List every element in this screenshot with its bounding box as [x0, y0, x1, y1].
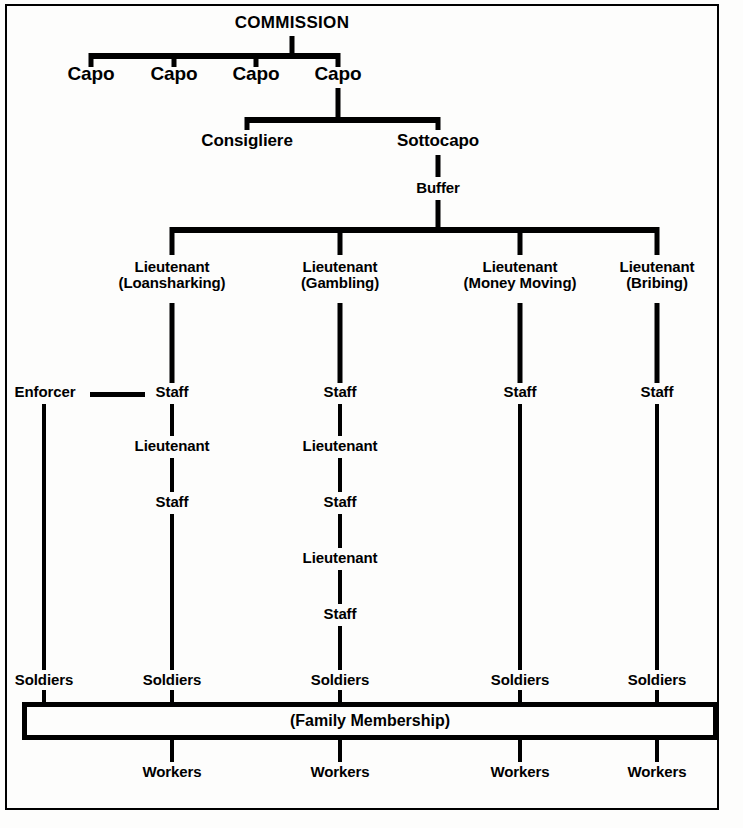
node-lieutenant-loansharking: Lieutenant (Loansharking): [119, 259, 226, 291]
family-membership-label: (Family Membership): [290, 712, 450, 730]
node-soldiers-money-moving: Soldiers: [491, 672, 549, 688]
connector-lieutenant-bus: [170, 227, 659, 233]
figure-border: [5, 4, 719, 810]
connector-gambling-4: [338, 570, 342, 604]
connector-gambling-to-soldiers: [338, 626, 342, 670]
connector-loansharking-1: [170, 404, 174, 436]
family-membership-box: (Family Membership): [22, 702, 718, 740]
node-workers-gambling: Workers: [310, 764, 369, 780]
lieutenant-rank-label: Lieutenant: [301, 259, 379, 275]
lieutenant-rank-label: Lieutenant: [620, 259, 695, 275]
node-soldiers-enforcer: Soldiers: [15, 672, 73, 688]
lieutenant-rank-label: Lieutenant: [464, 259, 577, 275]
node-workers-bribing: Workers: [627, 764, 686, 780]
node-workers-money-moving: Workers: [490, 764, 549, 780]
org-chart-figure: COMMISSION Capo Capo Capo Capo Consiglie…: [0, 0, 743, 828]
connector-consigliere-stub: [245, 117, 250, 130]
lieutenant-domain-label: (Bribing): [620, 275, 695, 291]
connector-buffer-stem: [436, 200, 441, 230]
node-soldiers-bribing: Soldiers: [628, 672, 686, 688]
connector-gambling-to-staff: [338, 303, 343, 383]
node-lieutenant-gambling-4: Lieutenant: [303, 550, 378, 566]
connector-moneymoving-to-soldiers: [518, 404, 522, 670]
connector-loansharking-2: [170, 458, 174, 492]
connector-loansharking-to-staff: [170, 303, 175, 383]
connector-capo4-stem: [336, 88, 341, 120]
node-lieutenant-money-moving: Lieutenant (Money Moving): [464, 259, 577, 291]
node-staff-loansharking-1: Staff: [156, 384, 189, 400]
node-capo-4: Capo: [314, 64, 361, 84]
node-staff-gambling-1: Staff: [324, 384, 357, 400]
node-lieutenant-bribing: Lieutenant (Bribing): [620, 259, 695, 291]
connector-gambling-2: [338, 458, 342, 492]
connector-gambling-3: [338, 514, 342, 548]
node-staff-loansharking-3: Staff: [156, 494, 189, 510]
node-capo-1: Capo: [67, 64, 114, 84]
connector-sottocapo-to-buffer: [436, 155, 441, 177]
connector-workers-bribing-stub: [655, 740, 659, 762]
node-lieutenant-gambling-2: Lieutenant: [303, 438, 378, 454]
node-staff-money-moving: Staff: [504, 384, 537, 400]
lieutenant-domain-label: (Loansharking): [119, 275, 226, 291]
connector-lt-loansharking-stub: [170, 227, 175, 255]
node-capo-3: Capo: [232, 64, 279, 84]
lieutenant-rank-label: Lieutenant: [119, 259, 226, 275]
node-commission: COMMISSION: [235, 14, 349, 32]
lieutenant-domain-label: (Money Moving): [464, 275, 577, 291]
node-staff-gambling-3: Staff: [324, 494, 357, 510]
connector-capo-bus: [89, 53, 340, 59]
connector-sottocapo-stub: [436, 117, 441, 130]
page-bleed-text: [0, 814, 743, 828]
connector-workers-loansharking-stub: [170, 740, 174, 762]
node-capo-2: Capo: [150, 64, 197, 84]
lieutenant-domain-label: (Gambling): [301, 275, 379, 291]
node-consigliere: Consigliere: [201, 132, 292, 150]
node-workers-loansharking: Workers: [142, 764, 201, 780]
connector-lt-moneymoving-stub: [518, 227, 523, 255]
node-staff-bribing: Staff: [641, 384, 674, 400]
connector-workers-gambling-stub: [338, 740, 342, 762]
node-staff-gambling-5: Staff: [324, 606, 357, 622]
node-lieutenant-gambling: Lieutenant (Gambling): [301, 259, 379, 291]
connector-lt-bribing-stub: [655, 227, 660, 255]
node-soldiers-loansharking: Soldiers: [143, 672, 201, 688]
connector-lt-gambling-stub: [338, 227, 343, 255]
node-lieutenant-loansharking-2: Lieutenant: [135, 438, 210, 454]
node-sottocapo: Sottocapo: [397, 132, 479, 150]
node-soldiers-gambling: Soldiers: [311, 672, 369, 688]
connector-enforcer-to-soldiers: [42, 404, 46, 670]
connector-loansharking-to-soldiers: [170, 514, 174, 670]
connector-workers-moneymoving-stub: [518, 740, 522, 762]
connector-moneymoving-to-staff: [518, 303, 523, 383]
node-buffer: Buffer: [416, 180, 460, 196]
connector-underboss-bus: [245, 117, 440, 123]
connector-bribing-to-staff: [655, 303, 660, 383]
node-enforcer: Enforcer: [15, 384, 76, 400]
connector-bribing-to-soldiers: [655, 404, 659, 670]
connector-enforcer-to-staff: [90, 392, 145, 397]
connector-gambling-1: [338, 404, 342, 436]
